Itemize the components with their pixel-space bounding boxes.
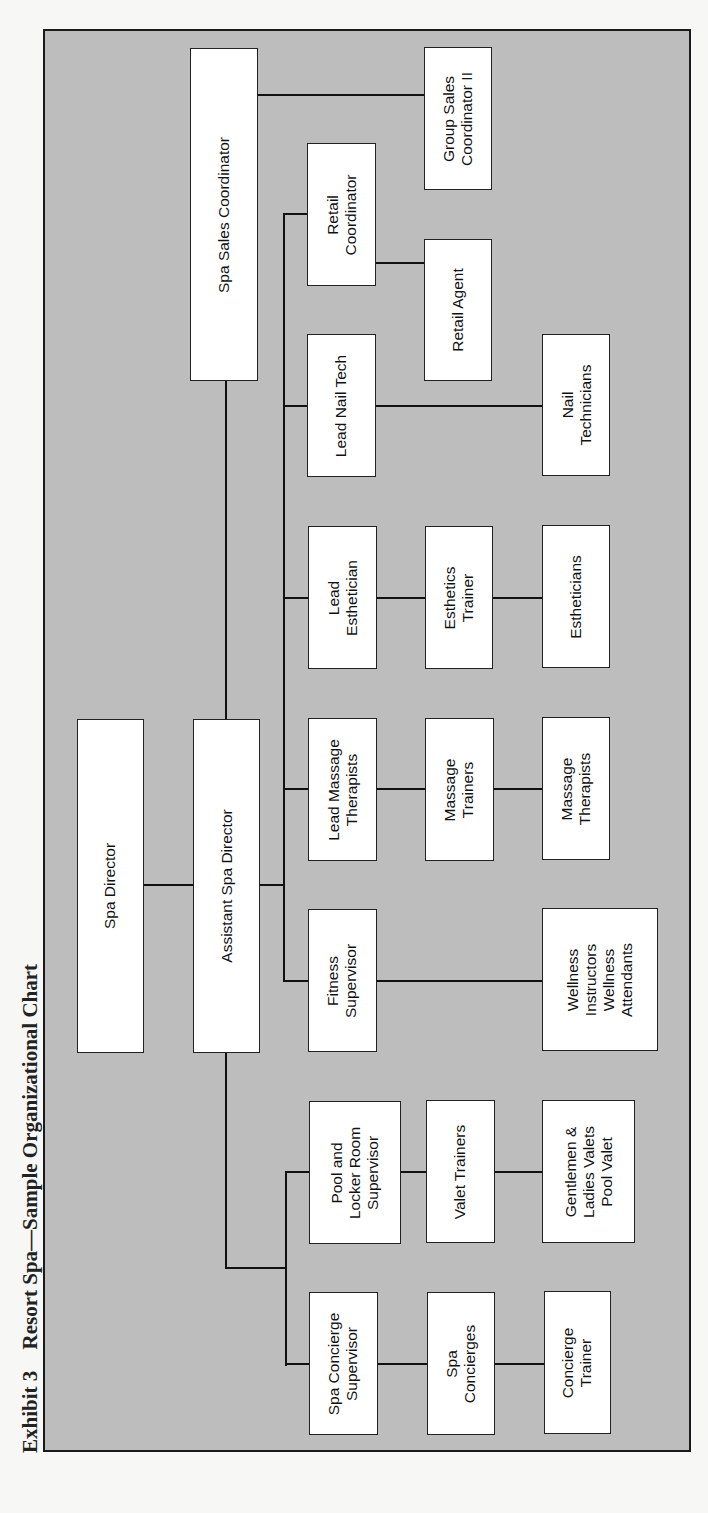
connector-bus-fitness [283, 980, 308, 982]
connector-fitness-to-wellness [377, 980, 542, 982]
connector-sales-to-assistant [225, 381, 227, 719]
connector-sales-to-group-sales [258, 94, 424, 96]
lower-bus [285, 1171, 287, 1366]
node-massage-trainers: Massage Trainers [425, 718, 494, 861]
connector-bus-retail-coordinator [283, 213, 308, 215]
node-spa-sales-coordinator: Spa Sales Coordinator [190, 48, 258, 381]
connector-assistant-to-upper-bus [260, 884, 285, 886]
connector-retail-coord-to-agent [376, 262, 424, 264]
node-group-sales-coordinator: Group Sales Coordinator II [424, 47, 492, 190]
node-estheticians: Estheticians [542, 525, 610, 668]
connector-bus-concierge [285, 1363, 309, 1365]
node-spa-director: Spa Director [77, 719, 144, 1053]
node-valet-trainers: Valet Trainers [426, 1100, 495, 1243]
node-lead-massage-therapists: Lead Massage Therapists [308, 718, 377, 861]
node-massage-therapists: Massage Therapists [542, 717, 610, 860]
connector-bus-lead-massage [283, 788, 308, 790]
node-lead-esthetician: Lead Esthetician [308, 526, 377, 669]
node-lead-nail-tech: Lead Nail Tech [307, 334, 376, 477]
node-spa-concierge-supervisor: Spa Concierge Supervisor [309, 1292, 378, 1435]
exhibit-number: Exhibit 3 [18, 1371, 42, 1453]
connector-director-to-assistant [144, 884, 193, 886]
node-retail-coordinator: Retail Coordinator [307, 143, 376, 286]
node-retail-agent: Retail Agent [424, 239, 492, 381]
node-wellness-staff: Wellness Instructors Wellness Attendants [542, 908, 658, 1051]
node-fitness-supervisor: Fitness Supervisor [308, 909, 377, 1052]
node-spa-concierges: Spa Concierges [427, 1292, 495, 1435]
connector-assistant-down [225, 1053, 227, 1269]
connector-assistant-to-lower-bus [225, 1267, 287, 1269]
node-pool-locker-supervisor: Pool and Locker Room Supervisor [309, 1101, 401, 1244]
connector-bus-lead-nail [283, 405, 308, 407]
node-assistant-spa-director: Assistant Spa Director [193, 719, 260, 1053]
connector-lead-nail-to-techs [376, 405, 542, 407]
node-concierge-trainer: Concierge Trainer [544, 1291, 611, 1434]
connector-bus-pool [285, 1171, 309, 1173]
connector-bus-lead-esthetician [283, 597, 308, 599]
node-nail-technicians: Nail Technicians [542, 334, 610, 476]
node-esthetics-trainer: Esthetics Trainer [425, 526, 493, 669]
node-valets: Gentlemen & Ladies Valets Pool Valet [542, 1100, 635, 1243]
chart-title: Resort Spa—Sample Organizational Chart [18, 964, 42, 1350]
